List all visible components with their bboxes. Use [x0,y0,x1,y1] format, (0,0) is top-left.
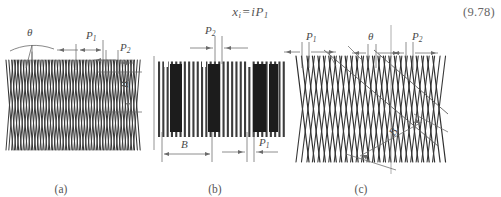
panel-a-label-p2: P2 [120,41,130,55]
figure-root: xi=iP1 (9.78) [0,0,501,197]
panel-a-svg [2,28,160,176]
equation-number: (9.78) [463,5,495,20]
panel-a-caption: (a) [0,183,140,195]
panel-c-label-theta: θ [368,30,373,42]
panel-a-label-theta: θ [27,26,32,38]
equation-row: xi=iP1 (9.78) [0,4,501,28]
equation-rhs: iP [251,4,264,19]
panel-a-label-b: B [118,81,130,88]
angle-marker-theta-a [10,45,54,68]
panel-c-caption: (c) [270,183,452,195]
dimension-p1-c [284,42,336,68]
equation-rhs-subscript: 1 [264,10,269,20]
panel-b-label-b: B [181,138,188,150]
stripe-pattern-b [158,58,286,141]
panel-b-artwork [150,28,296,176]
panel-b-label-p1: P1 [259,136,269,150]
panel-b-svg [150,28,296,176]
winding-pattern-c [296,56,446,162]
panel-c-label-p1: P1 [306,30,316,44]
panel-a-label-p1: P1 [86,29,96,43]
panel-c-label-p2: P2 [412,30,422,44]
equation-expression: xi=iP1 [0,4,501,20]
panel-c: P1 θ P2 B (c) [288,28,470,197]
panel-c-svg [288,28,470,176]
dimension-p2-c [392,42,438,70]
panel-c-artwork [288,28,470,176]
panel-a-artwork [2,28,160,176]
panel-b-caption: (b) [142,183,288,195]
panel-b-label-p2: P2 [205,24,215,38]
equation-equals: = [241,4,251,19]
panel-a: θ P1 P2 B (a) [2,28,160,197]
panel-b: P2 B P1 (b) [150,28,296,197]
